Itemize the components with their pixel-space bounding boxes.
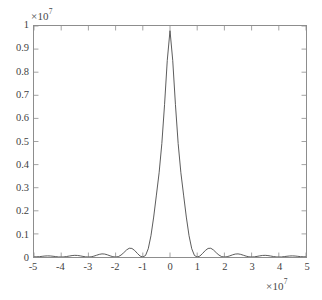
- y-axis-tick-label: 0.8: [16, 66, 29, 77]
- y-axis-tick-label: 0.3: [16, 183, 29, 194]
- x-axis-tick-label: -5: [29, 262, 38, 273]
- x-exponent-power: 7: [284, 277, 288, 286]
- data-curve-sinc-squared: [34, 31, 306, 257]
- y-axis-tick-label-group: 10.90.80.70.60.50.40.30.20.10: [0, 25, 29, 258]
- x-axis-exponent-label: ×107: [266, 279, 288, 292]
- x-axis-tick-label: -1: [138, 262, 147, 273]
- x-axis-tick-label: -2: [111, 262, 120, 273]
- y-axis-tick-label: 1: [24, 20, 29, 31]
- y-axis-tick-label: 0.9: [16, 43, 29, 54]
- x-exponent-base: 10: [272, 280, 283, 292]
- y-axis-tick-label: 0.6: [16, 113, 29, 124]
- x-axis-tick-label: -3: [83, 262, 92, 273]
- x-axis-tick-label: 1: [195, 262, 200, 273]
- y-axis-tick-label: 0.2: [16, 206, 29, 217]
- x-axis-tick-label: 0: [167, 262, 172, 273]
- x-axis-tick-label-group: -5-4-3-2-1012345: [33, 262, 307, 276]
- y-axis-tick-label: 0.5: [16, 136, 29, 147]
- x-axis-tick-label: -4: [56, 262, 65, 273]
- y-axis-tick-label: 0.7: [16, 90, 29, 101]
- y-axis-exponent-label: ×107: [31, 9, 53, 22]
- x-axis-tick-label: 3: [250, 262, 255, 273]
- y-axis-tick-label: 0.4: [16, 160, 29, 171]
- plot-area: [33, 25, 307, 258]
- y-exponent-power: 7: [49, 7, 53, 16]
- x-axis-tick-label: 2: [222, 262, 227, 273]
- y-axis-tick-label: 0.1: [16, 229, 29, 240]
- figure-canvas: ×107 10.90.80.70.60.50.40.30.20.10 -5-4-…: [0, 0, 322, 300]
- plot-svg: [34, 26, 306, 257]
- y-exponent-base: 10: [37, 10, 48, 22]
- x-axis-tick-label: 4: [277, 262, 282, 273]
- x-axis-tick-label: 5: [304, 262, 309, 273]
- axis-tick-marks: [34, 26, 306, 257]
